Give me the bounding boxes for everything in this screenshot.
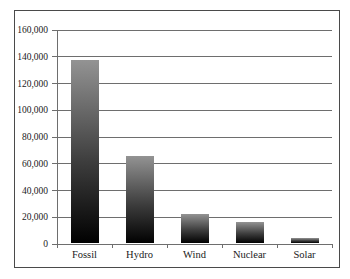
y-tick-label: 120,000 xyxy=(8,79,48,89)
gridline-0 xyxy=(57,244,332,245)
gridline-160000 xyxy=(57,30,332,31)
x-axis-tick xyxy=(167,244,168,248)
x-axis-tick xyxy=(277,244,278,248)
y-tick-label: 40,000 xyxy=(8,186,48,196)
x-axis-label-nuclear: Nuclear xyxy=(222,249,277,260)
y-tick-label: 100,000 xyxy=(8,105,48,115)
x-axis-label-wind: Wind xyxy=(167,249,222,260)
bar-wind xyxy=(181,214,209,243)
bar-hydro xyxy=(126,156,154,243)
y-tick-label: 60,000 xyxy=(8,159,48,169)
y-tick-label: 140,000 xyxy=(8,52,48,62)
y-tick-label: 0 xyxy=(8,239,48,249)
x-axis-label-fossil: Fossil xyxy=(57,249,112,260)
x-axis-tick xyxy=(57,244,58,248)
chart-canvas: 020,00040,00060,00080,000100,000120,0001… xyxy=(0,0,350,279)
y-tick-label: 20,000 xyxy=(8,212,48,222)
x-axis-tick xyxy=(332,244,333,248)
x-axis-tick xyxy=(222,244,223,248)
x-axis-tick xyxy=(112,244,113,248)
y-tick-label: 80,000 xyxy=(8,132,48,142)
x-axis-label-hydro: Hydro xyxy=(112,249,167,260)
chart-frame: 020,00040,00060,00080,000100,000120,0001… xyxy=(14,10,340,268)
gridline-140000 xyxy=(57,56,332,57)
y-tick-label: 160,000 xyxy=(8,25,48,35)
bar-fossil xyxy=(71,60,99,243)
y-axis-line xyxy=(57,30,58,245)
x-axis-label-solar: Solar xyxy=(277,249,332,260)
plot-area: 020,00040,00060,00080,000100,000120,0001… xyxy=(57,30,332,244)
bar-nuclear xyxy=(236,222,264,243)
bar-solar xyxy=(291,238,319,243)
